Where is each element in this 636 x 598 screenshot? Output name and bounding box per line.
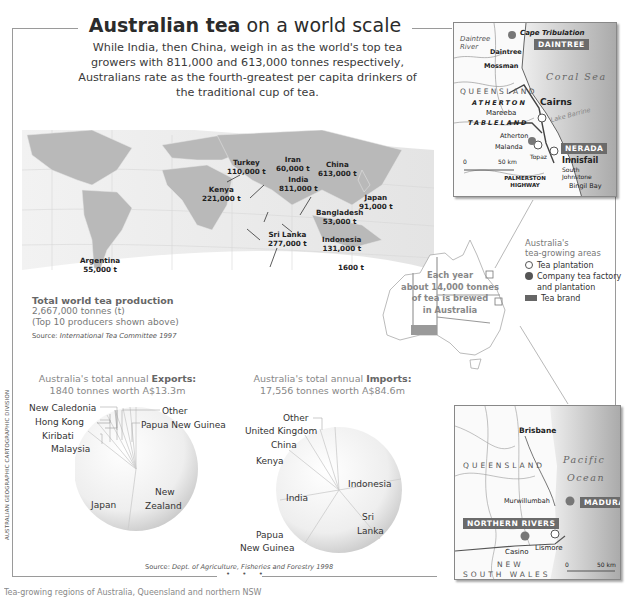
imports-label-papua: Papua [256,530,283,540]
exports-label-japan: Japan [91,500,116,510]
exports-label-kiribati: Kiribati [42,431,74,441]
imports-label-lanka: Lanka [357,526,384,536]
brand-madura: MADURA [580,497,621,508]
scale-north-end: 50 km [498,158,517,165]
place-coral-sea: Coral Sea [546,71,607,82]
place-bingil-bay: Bingil Bay [569,182,601,190]
tea-plantation-icon [525,261,533,269]
place-cape-tribulation: Cape Tribulation [520,29,585,37]
scale-south-end: 50 km [597,561,616,568]
place-daintree: Daintree [490,48,522,56]
scale-south-start: 0 [565,561,569,568]
exports-label-hong-kong: Hong Kong [35,417,84,427]
legend-title: Australia'stea-growing areas [525,238,636,258]
place-ocean: Ocean [567,472,605,483]
imports-label-united-kingdom: United Kingdom [245,426,317,436]
inset-map-northern-nsw: Brisbane Pacific Ocean QUEENSLAND Murwil… [454,405,621,580]
exports-label-new: New [155,487,175,497]
place-south-johnstone: South Johnstone [562,166,602,180]
legend: Australia'stea-growing areas Tea plantat… [525,238,636,304]
brand-daintree: DAINTREE [534,39,589,50]
imports-label-sri: Sri [362,512,374,522]
place-atherton: Atherton [500,132,528,140]
place-tableland: TABLELAND [468,119,529,127]
imports-leader-line [310,412,330,432]
imports-label-other: Other [283,413,309,423]
imports-label-new-guinea: New Guinea [240,543,294,553]
exports-label-malaysia: Malaysia [51,444,90,454]
legend-item-brand: Tea brand [525,293,636,304]
place-innisfail: Innisfail [562,156,598,165]
place-lismore: Lismore [535,544,563,552]
legend-item-factory: Company tea factory and plantation [525,271,636,293]
exports-label-zealand: Zealand [145,501,182,511]
company-factory-icon [525,272,533,280]
place-mareeba: Mareeba [486,109,516,117]
imports-title: Australia's total annual Imports:17,556 … [245,373,420,397]
place-palmerston-highway: PALMERSTON HIGHWAY [502,175,548,189]
place-mossman: Mossman [484,62,518,70]
separator-dots: • • • [226,570,268,578]
place-daintree-river: Daintree River [460,35,494,51]
exports-title: Australia's total annual Exports:1840 to… [30,373,205,397]
imports-label-india: India [286,493,308,503]
figure-caption: Tea-growing regions of Australia, Queens… [4,588,262,598]
place-cairns: Cairns [540,97,572,107]
exports-label-new-caledonia: New Caledonia [29,403,96,413]
cartographic-credit: AUSTRALIAN GEOGRAPHIC CARTOGRAPHIC DIVIS… [4,390,10,540]
place-topaz: Topaz [530,153,547,160]
inset-map-north-queensland: Cape Tribulation Daintree River Daintree… [453,22,617,197]
place-atherton-region: ATHERTON [472,99,527,107]
imports-label-kenya: Kenya [256,456,284,466]
place-pacific: Pacific [563,454,605,465]
legend-item-plantation: Tea plantation [525,260,636,271]
imports-label-indonesia: Indonesia [348,479,392,489]
tea-brand-icon [525,295,537,301]
place-malanda: Malanda [495,143,523,151]
brand-northern-rivers: NORTHERN RIVERS [463,518,559,529]
place-casino: Casino [505,548,529,556]
exports-leader-lines [100,400,180,445]
brand-nerada: NERADA [561,143,607,154]
place-queensland-south: QUEENSLAND [463,461,545,470]
place-brisbane: Brisbane [519,426,556,435]
imports-label-china: China [271,440,297,450]
scale-north-start: 0 [463,158,467,165]
place-queensland-north: QUEENSLAND [460,87,537,96]
place-new: NEW [497,560,524,569]
place-murwillumbah: Murwillumbah [504,497,550,505]
place-south-wales: SOUTH WALES [463,570,551,579]
